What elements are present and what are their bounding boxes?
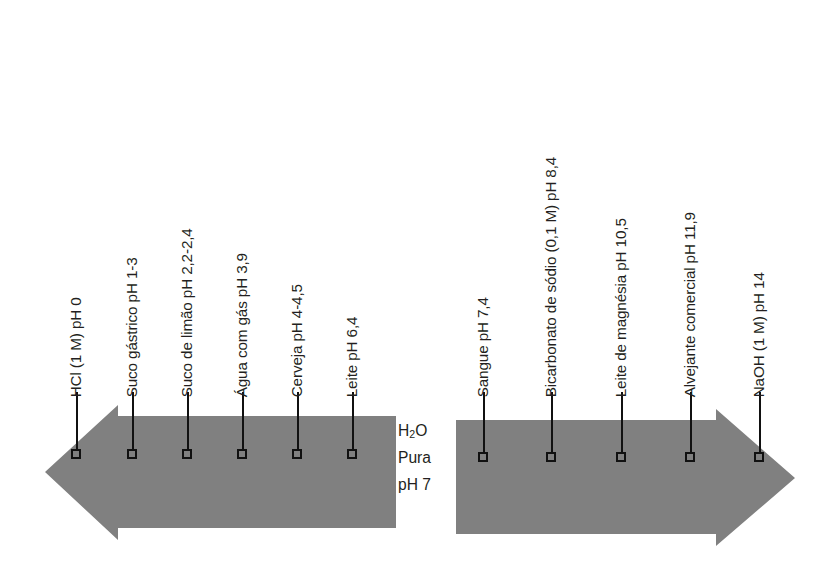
ph-scale-diagram: H2O Pura pH 7 HCl (1 M) pH 0Suco gástric… [0,0,835,579]
ph-point-marker [347,449,357,459]
leader-line [297,392,299,449]
ph-point-marker [237,449,247,459]
ph-substance-label: NaOH (1 M) pH 14 [751,272,766,397]
ph-point-marker [478,452,488,462]
acid-arrow-left [45,405,396,540]
ph-substance-label: Leite de magnésia pH 10,5 [613,218,628,397]
ph-substance-label: Sangue pH 7,4 [475,297,490,397]
ph-point-marker [546,452,556,462]
ph-point-marker [616,452,626,462]
ph-point-marker [685,452,695,462]
water-ph-line: pH 7 [398,472,456,499]
ph-substance-label: Leite pH 6,4 [344,317,359,398]
ph-substance-label: HCl (1 M) pH 0 [68,297,83,397]
ph-substance-label: Água com gás pH 3,9 [234,253,249,397]
leader-line [187,392,189,449]
leader-line [76,392,78,449]
ph-substance-label: Alvejante comercial pH 11,9 [682,212,697,397]
leader-line [759,392,761,452]
leader-line [132,392,134,449]
leader-line [483,392,485,452]
water-formula-line: H2O [398,418,456,445]
water-formula-pre: H [398,422,409,439]
ph-substance-label: Suco de limão pH 2,2-2,4 [179,228,194,397]
leader-line [690,392,692,452]
pure-water-caption: H2O Pura pH 7 [398,418,456,498]
ph-point-marker [292,449,302,459]
ph-substance-label: Suco gástrico pH 1-3 [124,257,139,397]
ph-point-marker [182,449,192,459]
water-formula-post: O [415,422,427,439]
leader-line [352,392,354,449]
leader-line [551,392,553,452]
leader-line [242,392,244,449]
leader-line [621,392,623,452]
base-arrow-right [456,409,795,546]
ph-point-marker [127,449,137,459]
ph-point-marker [71,449,81,459]
water-purity-line: Pura [398,445,456,472]
ph-substance-label: Bicarbonato de sódio (0,1 M) pH 8,4 [543,157,558,398]
ph-point-marker [754,452,764,462]
ph-substance-label: Cerveja pH 4-4,5 [289,284,304,397]
